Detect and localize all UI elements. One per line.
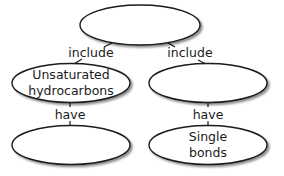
node-mid-right — [149, 64, 267, 103]
node-mid-right-ellipse — [149, 64, 267, 103]
node-bottom-right: Single bonds — [149, 126, 267, 165]
node-mid-left-line-1: Unsaturated — [32, 67, 109, 82]
edge-label-include-right: include — [167, 45, 213, 60]
edge-label-include-left: include — [68, 45, 114, 60]
edge-label-have-right: have — [193, 107, 224, 122]
node-bottom-right-line-2: bonds — [189, 145, 227, 160]
node-bottom-left-ellipse — [12, 126, 130, 165]
edge-label-have-left: have — [55, 107, 86, 122]
node-top-ellipse — [80, 5, 200, 45]
concept-map: Unsaturated hydrocarbons Single bonds in… — [0, 0, 284, 176]
node-top — [80, 5, 200, 45]
node-bottom-left — [12, 126, 130, 165]
node-mid-left: Unsaturated hydrocarbons — [12, 64, 130, 103]
node-mid-left-line-2: hydrocarbons — [28, 83, 113, 98]
node-bottom-right-line-1: Single — [189, 129, 228, 144]
